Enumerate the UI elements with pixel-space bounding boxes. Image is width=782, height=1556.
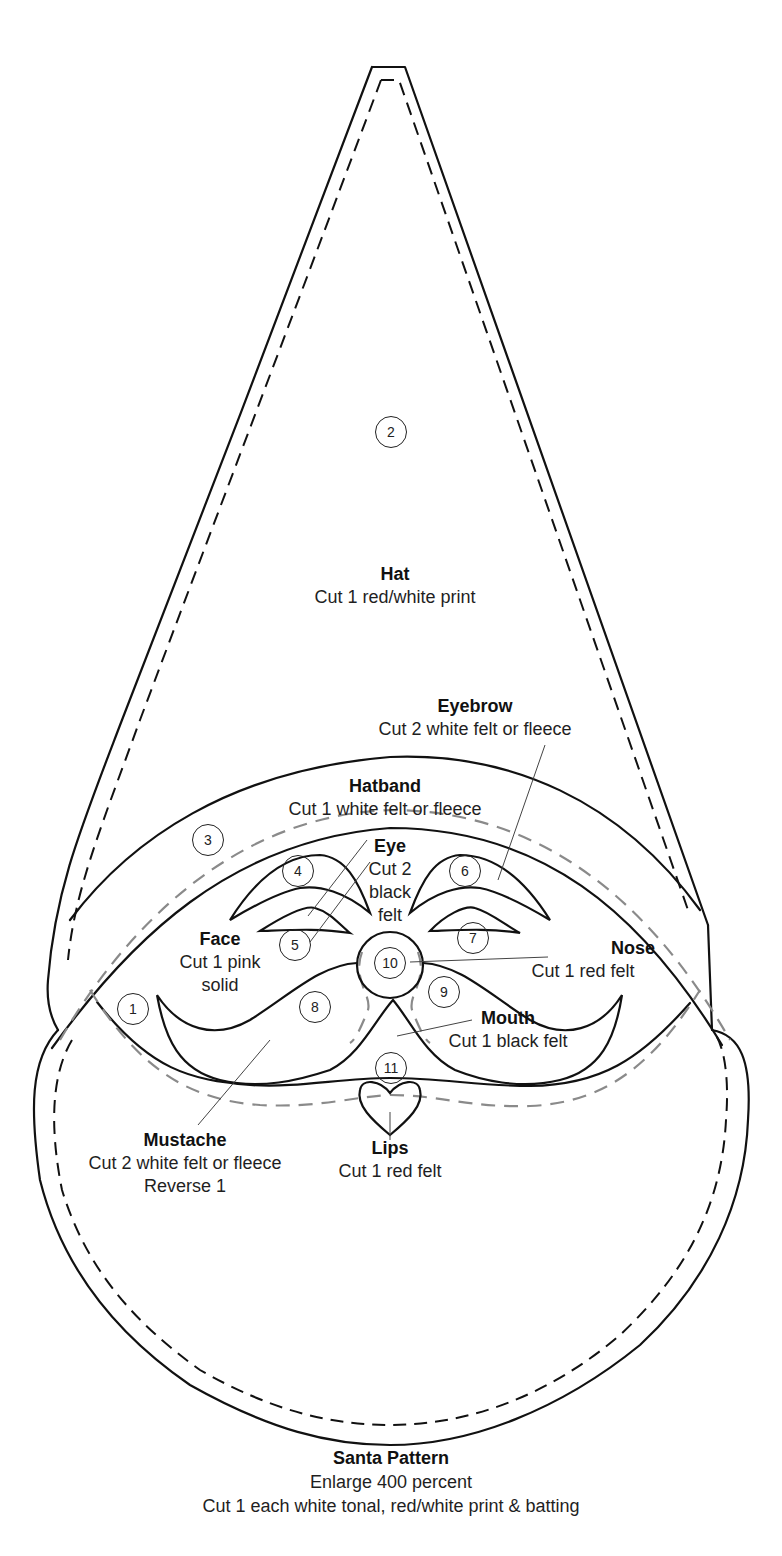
piece-number-9: 9	[428, 976, 460, 1008]
piece-number-11: 11	[375, 1052, 407, 1084]
hatband-title: Hatband	[260, 775, 510, 798]
piece-number-3: 3	[192, 824, 224, 856]
lips-instruction: Cut 1 red felt	[320, 1160, 460, 1183]
piece-number-10: 10	[374, 947, 406, 979]
caption-cut-instructions: Cut 1 each white tonal, red/white print …	[0, 1494, 782, 1518]
eye-instruction-2: black	[355, 881, 425, 904]
eye-instruction-3: felt	[355, 904, 425, 927]
piece-number-4: 4	[282, 855, 314, 887]
mouth-label: Mouth Cut 1 black felt	[428, 1007, 588, 1053]
lips-label: Lips Cut 1 red felt	[320, 1137, 460, 1183]
head-seam-line	[54, 1030, 727, 1425]
mouth-title: Mouth	[428, 1007, 588, 1030]
mustache-title: Mustache	[65, 1129, 305, 1152]
nose-instruction: Cut 1 red felt	[508, 960, 658, 983]
lips-title: Lips	[320, 1137, 460, 1160]
mustache-instruction-1: Cut 2 white felt or fleece	[65, 1152, 305, 1175]
hat-label: Hat Cut 1 red/white print	[290, 563, 500, 609]
hatband-instruction: Cut 1 white felt or fleece	[260, 798, 510, 821]
face-label: Face Cut 1 pink solid	[160, 928, 280, 997]
eyebrow-instruction: Cut 2 white felt or fleece	[355, 718, 595, 741]
hatband-label: Hatband Cut 1 white felt or fleece	[260, 775, 510, 821]
face-instruction-2: solid	[160, 974, 280, 997]
hat-title: Hat	[290, 563, 500, 586]
piece-number-1: 1	[117, 993, 149, 1025]
piece-number-5: 5	[279, 929, 311, 961]
mustache-label: Mustache Cut 2 white felt or fleece Reve…	[65, 1129, 305, 1198]
caption-enlarge: Enlarge 400 percent	[0, 1470, 782, 1494]
eye-label: Eye Cut 2 black felt	[355, 835, 425, 927]
eye-title: Eye	[355, 835, 425, 858]
piece-number-6: 6	[449, 855, 481, 887]
mouth-instruction: Cut 1 black felt	[428, 1030, 588, 1053]
nose-label: Nose Cut 1 red felt	[508, 937, 658, 983]
eyebrow-title: Eyebrow	[355, 695, 595, 718]
mustache-leader-line	[198, 1040, 270, 1125]
eyebrow-label: Eyebrow Cut 2 white felt or fleece	[355, 695, 595, 741]
face-title: Face	[160, 928, 280, 951]
piece-number-8: 8	[299, 991, 331, 1023]
face-instruction-1: Cut 1 pink	[160, 951, 280, 974]
nose-title: Nose	[508, 937, 658, 960]
caption-title: Santa Pattern	[0, 1446, 782, 1470]
piece-number-7: 7	[457, 922, 489, 954]
eye-instruction-1: Cut 2	[355, 858, 425, 881]
mustache-instruction-2: Reverse 1	[65, 1175, 305, 1198]
piece-number-2: 2	[375, 416, 407, 448]
pattern-caption: Santa Pattern Enlarge 400 percent Cut 1 …	[0, 1446, 782, 1518]
hat-instruction: Cut 1 red/white print	[290, 586, 500, 609]
